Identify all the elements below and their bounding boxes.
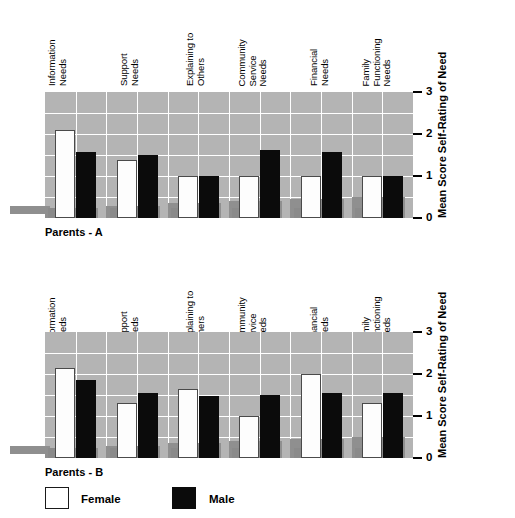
- y-axis-title-line-2: Self-Rating of Need: [436, 292, 448, 393]
- legend-swatch-female: [45, 487, 69, 509]
- y-tick: [413, 415, 422, 417]
- category-label-line: Financial: [309, 49, 320, 86]
- panel-title-top: Parents - A: [45, 226, 103, 238]
- legend-label-male: Male: [209, 493, 235, 505]
- y-tick-label: 0: [426, 452, 432, 464]
- bar-female: [362, 176, 382, 218]
- bar-female: [301, 176, 321, 218]
- category-label-line: Support: [119, 53, 130, 86]
- bar-male: [322, 152, 342, 218]
- bar-male: [199, 176, 219, 218]
- y-tick-label: 1: [426, 170, 432, 182]
- category-label: SupportNeeds: [119, 53, 140, 86]
- bar-male: [383, 393, 403, 458]
- category-label: FinancialNeeds: [309, 49, 330, 86]
- category-label-line: Needs: [382, 38, 393, 86]
- category-label-line: Community: [237, 39, 248, 86]
- bar-female: [239, 176, 259, 218]
- floor-ramp: [10, 206, 50, 214]
- bar-female: [117, 160, 137, 218]
- category-label-line: Others: [196, 33, 207, 86]
- bar-male: [138, 155, 158, 218]
- bar-male: [138, 393, 158, 458]
- category-label-line: Explaining to: [185, 33, 196, 86]
- y-tick: [413, 175, 422, 177]
- bar-male: [76, 152, 96, 218]
- y-tick: [413, 457, 422, 459]
- y-axis-title-bottom: Mean Score Self-Rating of Need: [436, 328, 450, 458]
- bars-top: [45, 92, 413, 218]
- bar-female: [117, 403, 137, 458]
- bar-female: [178, 176, 198, 218]
- bar-male: [199, 396, 219, 458]
- floor-ramp: [10, 446, 50, 454]
- bar-female: [239, 416, 259, 458]
- y-tick-label: 3: [426, 326, 432, 338]
- legend-swatch-male: [172, 487, 196, 509]
- y-tick-label: 0: [426, 212, 432, 224]
- bar-male: [76, 380, 96, 458]
- y-tick: [413, 373, 422, 375]
- category-label: FamilyFunctioningNeeds: [361, 38, 393, 86]
- y-tick-label: 2: [426, 368, 432, 380]
- y-axis-title-line-2: Self-Rating of Need: [436, 52, 448, 153]
- bar-female: [301, 374, 321, 458]
- y-axis-title-line-1: Mean Score: [436, 156, 448, 218]
- category-label: Explaining toOthers: [185, 33, 206, 86]
- bar-female: [362, 403, 382, 458]
- bar-male: [260, 150, 280, 218]
- category-label-line: Information: [47, 40, 58, 86]
- bar-female: [55, 130, 75, 218]
- y-tick: [413, 331, 422, 333]
- category-label-line: Needs: [58, 40, 69, 86]
- category-label-line: Family: [361, 38, 372, 86]
- panel-title-bottom: Parents - B: [45, 466, 103, 478]
- bar-male: [260, 395, 280, 458]
- category-label-line: Needs: [320, 49, 331, 86]
- bar-female: [55, 368, 75, 458]
- y-tick-label: 2: [426, 128, 432, 140]
- category-label: CommunityServiceNeeds: [237, 39, 269, 86]
- bars-bottom: [45, 332, 413, 458]
- chart-panel-parents-a: InformationNeedsSupportNeedsExplaining t…: [0, 0, 515, 258]
- bar-male: [322, 393, 342, 458]
- bar-male: [383, 176, 403, 218]
- category-label: InformationNeeds: [47, 40, 68, 86]
- chart-panel-parents-b: InformationNeedsSupportNeedsExplaining t…: [0, 258, 515, 518]
- category-label-line: Needs: [258, 39, 269, 86]
- y-axis-title-line-1: Mean Score: [436, 396, 448, 458]
- y-tick: [413, 133, 422, 135]
- y-tick: [413, 91, 422, 93]
- category-label-line: Needs: [130, 53, 141, 86]
- bar-female: [178, 389, 198, 458]
- y-tick-label: 3: [426, 86, 432, 98]
- y-tick: [413, 217, 422, 219]
- y-tick-label: 1: [426, 410, 432, 422]
- y-axis-title-top: Mean Score Self-Rating of Need: [436, 88, 450, 218]
- legend-label-female: Female: [81, 493, 121, 505]
- legend: Female Male: [0, 487, 515, 515]
